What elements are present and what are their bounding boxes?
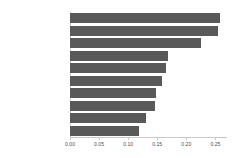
bar-row: Binary Query [70, 62, 227, 75]
bar-row: Excerpt Similarity #2 [70, 87, 227, 100]
bar [70, 88, 156, 98]
x-tick-label: 0.20 [181, 141, 191, 147]
bar-chart: Title Similarity #1Binary PatternContent… [0, 0, 232, 158]
bar [70, 76, 162, 86]
bar-row: Normalized TF Sum [70, 50, 227, 63]
bar-row: Normalized TF Average [70, 112, 227, 125]
x-tick-label: 0.15 [152, 141, 162, 147]
x-tick-label: 0.25 [210, 141, 220, 147]
bar [70, 63, 166, 73]
plot-area: Title Similarity #1Binary PatternContent… [70, 12, 227, 137]
x-axis-line [70, 137, 227, 138]
x-tick-mark [215, 137, 216, 140]
bar [70, 51, 168, 61]
bar [70, 13, 220, 23]
bar-row: Binary Pattern [70, 25, 227, 38]
x-tick-label: 0.00 [65, 141, 75, 147]
x-tick-mark [157, 137, 158, 140]
bar [70, 113, 146, 123]
bar-row: Title Similarity #1 [70, 12, 227, 25]
bar-row: Title Similarity #2 [70, 100, 227, 113]
bar [70, 26, 218, 36]
x-tick-mark [70, 137, 71, 140]
bar [70, 101, 155, 111]
bar-row: Content Similarity #1 [70, 37, 227, 50]
x-tick-mark [99, 137, 100, 140]
x-tick-label: 0.05 [94, 141, 104, 147]
x-tick-mark [128, 137, 129, 140]
bar [70, 38, 201, 48]
bar [70, 126, 139, 136]
bar-row: Excerpt Similarity #1 [70, 125, 227, 138]
bar-row: Normalized TF Max [70, 75, 227, 88]
x-tick-mark [186, 137, 187, 140]
x-tick-label: 0.10 [123, 141, 133, 147]
